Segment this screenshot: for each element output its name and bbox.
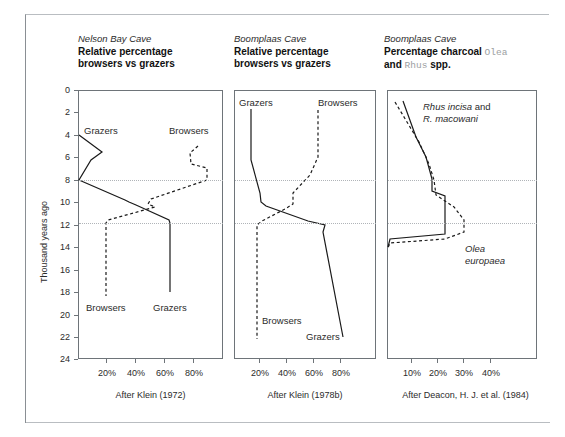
panel-2-browsers-curve <box>257 110 318 339</box>
panel-3-olea-label-line2: europaea <box>465 255 505 266</box>
panel-1-reference-line-8ka <box>79 180 223 181</box>
panel-1-grazers-curve <box>79 135 170 292</box>
panel-2-grazers-label-top: Grazers <box>239 97 273 108</box>
panel-2-curves <box>226 15 381 424</box>
panel-1-grazers-label-bottom: Grazers <box>153 302 187 313</box>
panel-3-reference-line-8ka <box>388 180 537 181</box>
panel-3-rhus-label-line1: Rhus incisa and <box>423 101 491 112</box>
panel-2-browsers-label-bottom: Browsers <box>262 315 302 326</box>
panel-boomplaas-charcoal: Boomplaas Cave Percentage charcoal Olea … <box>381 15 550 424</box>
panel-3-rhus-label-and: and <box>472 101 491 112</box>
panel-3-rhus-label-species: Rhus incisa <box>423 101 472 112</box>
panel-1-grazers-label-top: Grazers <box>84 125 118 136</box>
panel-2-source: After Klein (1978b) <box>234 390 376 400</box>
panel-3-olea-label-line1: Olea <box>465 243 485 254</box>
panel-1-reference-line-12ka <box>79 223 223 224</box>
panel-1-source: After Klein (1972) <box>78 390 223 400</box>
panel-1-browsers-label-bottom: Browsers <box>86 302 126 313</box>
figure-frame: Thousand years ago Nelson Bay Cave Relat… <box>25 14 549 423</box>
panel-3-rhus-label-line2: R. macowani <box>423 113 478 124</box>
panel-2-reference-line-8ka <box>235 180 376 181</box>
panel-2-reference-line-12ka <box>235 223 376 224</box>
panel-1-browsers-curve <box>106 146 207 296</box>
panel-2-grazers-label-bottom: Grazers <box>306 331 340 342</box>
panel-nelson-bay-cave: Nelson Bay Cave Relative percentage brow… <box>26 15 226 424</box>
panel-3-curves <box>381 15 550 424</box>
panel-3-source: After Deacon, H. J. et al. (1984) <box>381 390 550 400</box>
panel-1-browsers-label-top: Browsers <box>169 125 209 136</box>
panel-3-reference-line-12ka <box>388 223 537 224</box>
panel-boomplaas-browsers-grazers: Boomplaas Cave Relative percentage brows… <box>226 15 381 424</box>
panel-2-browsers-label-top: Browsers <box>318 97 358 108</box>
panel-1-curves <box>26 15 226 424</box>
